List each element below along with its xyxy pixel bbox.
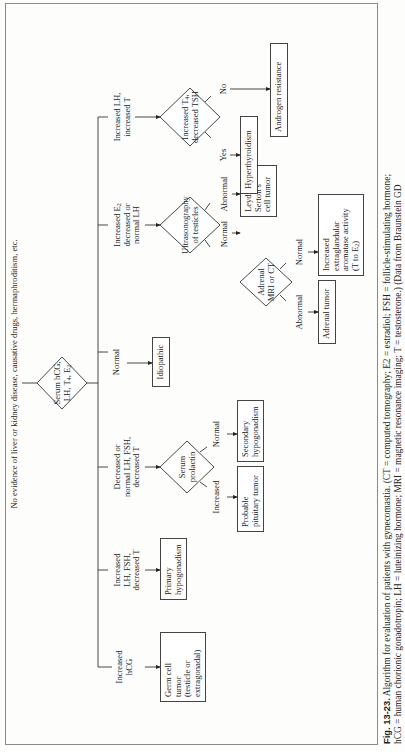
node-germ-cell-tumor: Germ celltumor(testicle orextragonadal) <box>160 632 206 702</box>
decision-ultrasonography: Ultrasonographyof testicles <box>181 196 200 254</box>
decision-t4-tsh: Increased T4,decreased TSH <box>181 91 200 143</box>
node-primary-hypogonadism: Primaryhypogonadism <box>160 538 187 600</box>
caption-line1: Algorithm for evaluation of patients wit… <box>382 174 392 698</box>
decision-serum-prolactin: Serumprolactin <box>178 452 197 483</box>
node-hyperthyroidism: Hyperthyroidism <box>240 116 258 194</box>
node-adrenal-tumor: Adrenal tumor <box>318 280 336 344</box>
branch-label-increased-lh-fsh: IncreasedLH, FSH,decreased T <box>113 535 142 605</box>
node-probable-pituitary-tumor: Probablepituitary tumor <box>237 466 264 532</box>
decision-adrenal-imaging: AdrenalMRI or CT <box>257 263 276 302</box>
node-idiopathic: Idiopathic <box>152 337 170 387</box>
node-androgen-resistance: Androgen resistance <box>270 43 288 137</box>
caption-line2: hCG = human chorionic gonadotropin; LH =… <box>393 185 403 744</box>
label-adrenal-normal: Normal <box>295 234 305 270</box>
root-decision-label: Serum hCG, LH, T4, E2 <box>53 362 72 405</box>
label-adrenal-abnormal: Abnormal <box>295 292 305 332</box>
branch-label-normal: Normal <box>112 337 122 387</box>
branch-label-decreased-lh-fsh: Decreased ornormal LH, FSH,decreased T <box>113 427 142 507</box>
rotated-page: No evidence of liver or kidney disease, … <box>0 0 405 752</box>
label-t4-no: No <box>219 78 229 100</box>
figure-caption: Fig. 13-23. Algorithm for evaluation of … <box>382 4 403 744</box>
branch-label-increased-hcg: IncreasedhCG <box>115 637 134 697</box>
branch-label-increased-lh-t: Increased LH,increased T <box>113 82 132 152</box>
top-note: No evidence of liver or kidney disease, … <box>10 3 20 745</box>
node-increased-aromatase: Increasedextraglandulararomatase activit… <box>318 194 364 276</box>
label-us-abnormal: Abnormal <box>220 174 230 214</box>
label-t4-yes: Yes <box>219 143 229 167</box>
label-us-normal: Normal <box>220 216 230 252</box>
label-prolactin-increased: Increased <box>212 477 222 517</box>
branch-label-increased-e2: Increased E2decreased ornormal LH <box>113 190 142 260</box>
root-line1: Serum hCG, <box>52 362 62 405</box>
figure-number: Fig. 13-23. <box>381 698 392 744</box>
label-prolactin-normal: Normal <box>212 416 222 452</box>
node-secondary-hypogonadism: Secondaryhypogonadism <box>237 400 264 462</box>
